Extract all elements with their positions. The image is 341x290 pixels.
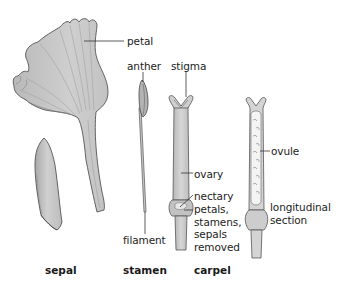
- label-longitudinal-section: longitudinal section: [270, 201, 331, 226]
- longitudinal-section-illustration: [245, 98, 268, 259]
- label-anther: anther: [127, 60, 161, 72]
- label-nectary: nectary: [194, 190, 233, 202]
- caption-stamen: stamen: [123, 264, 167, 276]
- sepal-illustration: [35, 138, 62, 230]
- label-ovary: ovary: [194, 168, 223, 180]
- label-ovule: ovule: [271, 145, 299, 157]
- label-petals-stamens-sepals-removed: petals, stamens, sepals removed: [194, 203, 241, 253]
- caption-sepal: sepal: [45, 264, 77, 276]
- stamen-illustration: [139, 80, 148, 212]
- petal-illustration: [13, 19, 108, 212]
- petal-shape: [13, 19, 108, 212]
- caption-carpel: carpel: [194, 264, 231, 276]
- label-filament: filament: [123, 234, 166, 246]
- label-stigma: stigma: [171, 60, 206, 72]
- label-petal: petal: [127, 35, 153, 47]
